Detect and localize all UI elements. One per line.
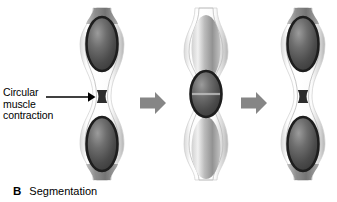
block-arrow-right-icon <box>241 92 267 114</box>
circular-muscle-contraction-label: Circular muscle contraction <box>3 87 75 122</box>
figure-caption: BSegmentation <box>13 185 97 198</box>
flow-arrow-2 <box>241 92 267 114</box>
intestine-stage-1 <box>80 8 124 180</box>
callout-line-3: contraction <box>3 110 75 122</box>
panel-title: Segmentation <box>29 185 97 197</box>
panel-letter: B <box>13 185 21 197</box>
callout-line-1: Circular <box>3 87 75 99</box>
segmentation-figure: Circular muscle contraction BSegmentatio… <box>0 0 337 202</box>
intestine-stage-2 <box>184 8 228 180</box>
flow-arrow-1 <box>140 92 166 114</box>
block-arrow-right-icon <box>140 92 166 114</box>
intestine-stage-3 <box>281 8 325 180</box>
